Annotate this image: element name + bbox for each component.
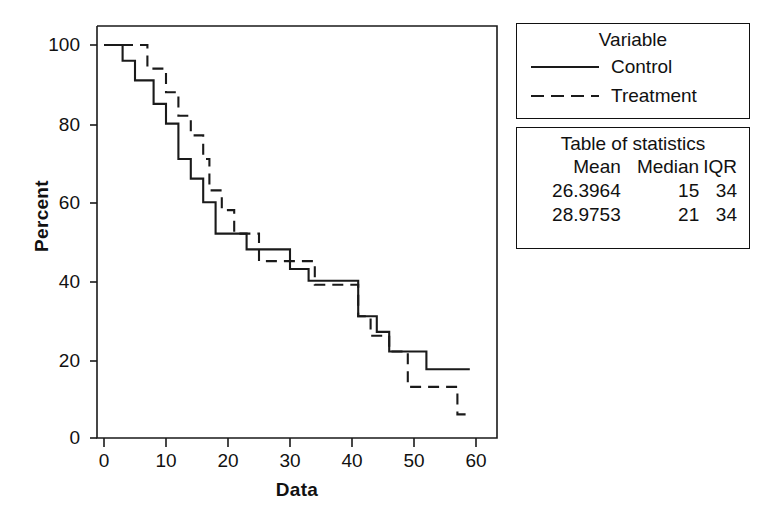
x-tick-10: 10 bbox=[146, 450, 186, 472]
legend-label-treatment: Treatment bbox=[611, 85, 697, 107]
y-tick-0: 0 bbox=[32, 427, 80, 449]
cell-median: 21 bbox=[625, 203, 703, 227]
survival-plot-figure: 100 80 60 40 20 0 0 10 20 30 40 50 60 Pe… bbox=[0, 0, 766, 513]
plot-canvas bbox=[0, 0, 510, 500]
statistics-title: Table of statistics bbox=[517, 133, 749, 155]
x-axis-title: Data bbox=[97, 479, 497, 501]
legend-item-control[interactable]: Control bbox=[517, 53, 749, 80]
series-layer bbox=[104, 45, 470, 414]
column-header-mean: Mean bbox=[517, 156, 625, 179]
cell-iqr: 34 bbox=[703, 179, 749, 203]
table-header-row: Mean Median IQR bbox=[517, 156, 749, 179]
y-tick-20: 20 bbox=[32, 350, 80, 372]
x-tick-30: 30 bbox=[270, 450, 310, 472]
plot-area: 100 80 60 40 20 0 0 10 20 30 40 50 60 Pe… bbox=[0, 0, 510, 500]
y-tick-100: 100 bbox=[32, 34, 80, 56]
solid-line-icon bbox=[531, 62, 599, 72]
column-header-median: Median bbox=[625, 156, 703, 179]
cell-mean: 26.3964 bbox=[517, 179, 625, 203]
x-tick-60: 60 bbox=[456, 450, 496, 472]
table-row: 28.9753 21 34 bbox=[517, 203, 749, 227]
caption-remnant bbox=[0, 501, 766, 513]
table-row: 26.3964 15 34 bbox=[517, 179, 749, 203]
series-line-treatment bbox=[104, 45, 470, 414]
legend-title: Variable bbox=[517, 29, 749, 51]
x-tick-0: 0 bbox=[84, 450, 124, 472]
statistics-box: Table of statistics Mean Median IQR 26.3… bbox=[516, 127, 750, 249]
dashed-line-icon bbox=[531, 91, 599, 101]
x-tick-50: 50 bbox=[394, 450, 434, 472]
legend-item-treatment[interactable]: Treatment bbox=[517, 82, 749, 109]
legend-box: Variable Control Treatment bbox=[516, 23, 750, 119]
column-header-iqr: IQR bbox=[703, 156, 749, 179]
x-tick-20: 20 bbox=[208, 450, 248, 472]
cell-iqr: 34 bbox=[703, 203, 749, 227]
y-axis-title: Percent bbox=[31, 156, 53, 276]
y-tick-80: 80 bbox=[32, 114, 80, 136]
cell-median: 15 bbox=[625, 179, 703, 203]
statistics-table: Mean Median IQR 26.3964 15 34 28.9753 21… bbox=[517, 156, 749, 227]
x-tick-40: 40 bbox=[332, 450, 372, 472]
series-line-control bbox=[104, 45, 470, 369]
plot-frame bbox=[97, 26, 497, 438]
legend-label-control: Control bbox=[611, 56, 672, 78]
cell-mean: 28.9753 bbox=[517, 203, 625, 227]
